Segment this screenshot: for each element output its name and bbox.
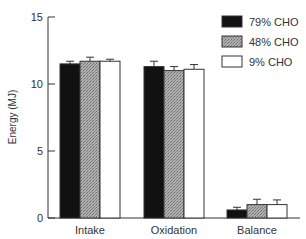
bar [184, 69, 204, 218]
bar [60, 64, 80, 218]
x-category-label: Balance [237, 224, 277, 236]
bars-group: IntakeOxidationBalance [60, 57, 287, 236]
bar [267, 205, 287, 218]
legend-item: 9% CHO [222, 56, 293, 68]
legend-label: 48% CHO [249, 36, 299, 48]
bar [100, 61, 120, 218]
legend-swatch [222, 36, 242, 47]
y-tick-label: 15 [31, 11, 43, 23]
bar [227, 210, 247, 218]
legend-label: 79% CHO [249, 16, 299, 28]
bar-group-intake: Intake [60, 57, 120, 236]
bar [144, 67, 164, 218]
x-category-label: Oxidation [151, 224, 197, 236]
y-axis-title: Energy (MJ) [7, 90, 18, 144]
legend: 79% CHO48% CHO9% CHO [222, 16, 299, 68]
legend-label: 9% CHO [249, 56, 293, 68]
legend-item: 48% CHO [222, 36, 299, 48]
y-tick-label: 5 [37, 145, 43, 157]
legend-item: 79% CHO [222, 16, 299, 28]
legend-swatch [222, 56, 242, 67]
bar-group-balance: Balance [227, 199, 287, 236]
bar [164, 71, 184, 218]
bar [247, 205, 267, 218]
y-tick-label: 0 [37, 212, 43, 224]
y-tick-label: 10 [31, 78, 43, 90]
bar [80, 61, 100, 218]
bar-group-oxidation: Oxidation [144, 61, 204, 236]
x-category-label: Intake [75, 224, 105, 236]
legend-swatch [222, 16, 242, 27]
bar-chart: 051015Energy (MJ) IntakeOxidationBalance… [0, 0, 306, 239]
